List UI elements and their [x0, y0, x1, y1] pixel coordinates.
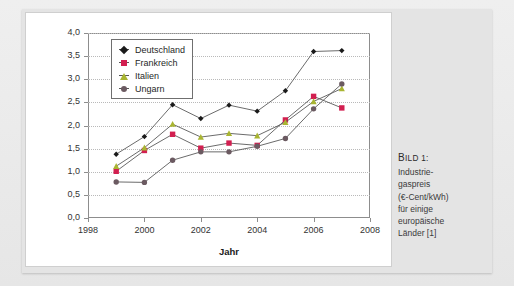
x-tick-mark — [257, 218, 258, 222]
x-tick-mark — [314, 218, 315, 222]
data-point-ungarn — [114, 179, 119, 184]
legend-item-ungarn: Ungarn — [116, 82, 185, 95]
data-point-frankreich — [226, 140, 231, 145]
legend-marker-diamond-icon — [116, 44, 132, 56]
data-point-italien — [170, 121, 176, 127]
x-tick-label: 2004 — [237, 225, 277, 235]
x-tick-mark — [201, 218, 202, 222]
data-point-ungarn — [311, 106, 316, 111]
y-tick-label: 1,0 — [42, 167, 80, 176]
data-point-ungarn — [283, 136, 288, 141]
plot-wrapper: 0,00,51,01,52,02,53,03,54,01998200020022… — [26, 13, 391, 266]
legend-item-deutschland: Deutschland — [116, 43, 185, 56]
x-tick-label: 2002 — [181, 225, 221, 235]
y-tick-label: 0,0 — [42, 213, 80, 222]
legend-marker-circle-icon — [116, 83, 132, 95]
scanned-page: 0,00,51,01,52,02,53,03,54,01998200020022… — [0, 0, 514, 286]
legend-label: Deutschland — [132, 45, 185, 55]
x-tick-mark — [370, 218, 371, 222]
data-point-italien — [311, 98, 317, 104]
data-point-ungarn — [142, 180, 147, 185]
y-tick-label: 4,0 — [42, 28, 80, 37]
x-tick-mark — [144, 218, 145, 222]
data-point-frankreich — [311, 94, 316, 99]
data-point-ungarn — [170, 157, 175, 162]
data-point-frankreich — [170, 132, 175, 137]
data-point-deutschland — [114, 151, 119, 156]
x-tick-label: 2006 — [294, 225, 334, 235]
y-tick-label: 0,5 — [42, 190, 80, 199]
data-point-frankreich — [339, 105, 344, 110]
chart-panel: 0,00,51,01,52,02,53,03,54,01998200020022… — [25, 12, 392, 267]
legend-item-frankreich: Frankreich — [116, 56, 185, 69]
chart-legend: DeutschlandFrankreichItalienUngarn — [111, 39, 193, 99]
data-point-ungarn — [339, 81, 344, 86]
y-tick-label: 3,5 — [42, 51, 80, 60]
legend-marker-square-icon — [116, 57, 132, 69]
x-tick-mark — [88, 218, 89, 222]
x-tick-label: 1998 — [68, 225, 108, 235]
data-point-ungarn — [226, 149, 231, 154]
y-tick-label: 3,0 — [42, 74, 80, 83]
legend-item-italien: Italien — [116, 69, 185, 82]
x-axis-title: Jahr — [88, 246, 370, 257]
data-point-italien — [113, 163, 119, 169]
y-tick-label: 1,5 — [42, 144, 80, 153]
legend-marker-triangle-icon — [116, 70, 132, 82]
figure-caption: BILD 1: Industrie-gaspreis(€-Cent/kWh)fü… — [398, 152, 490, 239]
data-point-ungarn — [198, 149, 203, 154]
data-point-frankreich — [114, 169, 119, 174]
legend-label: Italien — [132, 71, 159, 81]
data-point-ungarn — [255, 144, 260, 149]
data-point-deutschland — [198, 116, 203, 121]
legend-label: Ungarn — [132, 84, 165, 94]
x-tick-label: 2000 — [124, 225, 164, 235]
x-tick-label: 2008 — [350, 225, 390, 235]
caption-body: Industrie-gaspreis(€-Cent/kWh)für einige… — [398, 167, 449, 238]
caption-heading: BILD 1: — [398, 152, 490, 165]
y-tick-label: 2,5 — [42, 97, 80, 106]
data-point-deutschland — [226, 102, 231, 107]
legend-label: Frankreich — [132, 58, 178, 68]
data-point-deutschland — [339, 48, 344, 53]
y-tick-label: 2,0 — [42, 121, 80, 130]
